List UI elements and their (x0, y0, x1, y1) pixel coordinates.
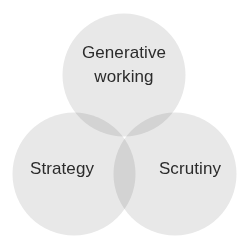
venn-circle-scrutiny (114, 113, 237, 236)
venn-circle-group (13, 14, 237, 236)
venn-circles-canvas (0, 0, 249, 247)
venn-diagram: Generative working Strategy Scrutiny (0, 0, 249, 247)
